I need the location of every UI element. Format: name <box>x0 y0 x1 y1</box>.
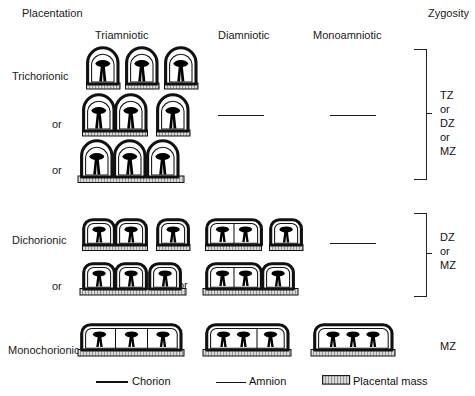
zygosity-line: MZ <box>440 258 456 272</box>
unit-dichorionic-triamniotic-variant-1 <box>83 220 191 251</box>
zygosity-bracket-trichorionic <box>414 49 427 180</box>
zygosity-line: or <box>440 102 456 116</box>
zygosity-line: MZ <box>440 144 456 158</box>
legend-chorion-line-icon <box>96 381 128 383</box>
legend-label-chorion: Chorion <box>132 375 171 387</box>
unit-monochorionic-triamniotic <box>78 325 184 356</box>
empty-cell-dash-trichorionic-diamniotic <box>218 115 264 116</box>
empty-cell-dash-dichorionic-monoamniotic <box>330 243 376 244</box>
zygosity-bracket-dichorionic <box>414 213 427 297</box>
zygosity-value-trichorionic: TZ or DZ or MZ <box>440 88 456 158</box>
zygosity-bracket-tick-dichorionic <box>426 253 432 254</box>
unit-dichorionic-diamniotic-variant-2 <box>203 264 298 295</box>
placentation-diagram <box>0 0 475 396</box>
unit-trichorionic-triamniotic-variant-3 <box>78 141 184 183</box>
zygosity-value-monochorionic: MZ <box>440 339 456 353</box>
unit-dichorionic-triamniotic-variant-2 <box>80 264 186 295</box>
empty-cell-dash-trichorionic-monoamniotic <box>330 115 376 116</box>
unit-monochorionic-monoamniotic <box>311 325 395 356</box>
zygosity-line: MZ <box>440 339 456 353</box>
unit-monochorionic-diamniotic <box>203 325 291 356</box>
legend-amnion-line-icon <box>216 382 246 383</box>
zygosity-value-dichorionic: DZ or MZ <box>440 230 456 272</box>
unit-trichorionic-triamniotic-variant-2 <box>83 95 191 136</box>
zygosity-line: DZ <box>440 116 456 130</box>
unit-dichorionic-diamniotic-variant-1 <box>206 220 304 251</box>
zygosity-line: or <box>440 130 456 144</box>
legend-label-placental-mass: Placental mass <box>353 375 428 387</box>
zygosity-line: or <box>440 244 456 258</box>
zygosity-bracket-tick-trichorionic <box>426 113 432 114</box>
zygosity-line: DZ <box>440 230 456 244</box>
legend-label-amnion: Amnion <box>249 375 286 387</box>
legend-placental-mass-swatch-icon <box>322 375 351 386</box>
unit-trichorionic-triamniotic-variant-1 <box>87 48 199 89</box>
zygosity-line: TZ <box>440 88 456 102</box>
